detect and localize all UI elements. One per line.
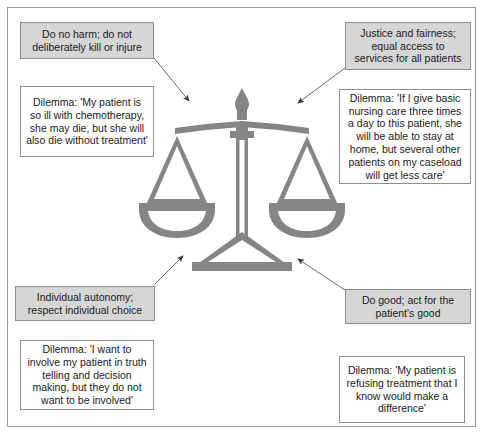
principle-text-no-harm: Do no harm; do not deliberately kill or … — [26, 28, 148, 54]
principle-box-justice: Justice and fairness; equal access to se… — [345, 22, 471, 70]
dilemma-box-chemotherapy: Dilemma: 'My patient is so ill with chem… — [20, 86, 154, 157]
dilemma-box-truth-telling: Dilemma: 'I want to involve my patient i… — [20, 340, 154, 410]
principle-box-no-harm: Do no harm; do not deliberately kill or … — [20, 22, 154, 59]
principle-text-do-good: Do good; act for the patient's good — [351, 294, 465, 320]
principle-box-autonomy: Individual autonomy; respect individual … — [15, 286, 155, 321]
dilemma-text-truth-telling: Dilemma: 'I want to involve my patient i… — [26, 343, 148, 407]
dilemma-box-refusing-treatment: Dilemma: 'My patient is refusing treatme… — [339, 356, 465, 423]
dilemma-text-refusing-treatment: Dilemma: 'My patient is refusing treatme… — [345, 364, 459, 415]
dilemma-text-chemotherapy: Dilemma: 'My patient is so ill with chem… — [26, 96, 148, 147]
ethics-diagram: Do no harm; do not deliberately kill or … — [0, 0, 484, 440]
principle-text-justice: Justice and fairness; equal access to se… — [351, 27, 465, 65]
dilemma-box-nursing-care: Dilemma: 'If I give basic nursing care t… — [339, 89, 471, 184]
dilemma-text-nursing-care: Dilemma: 'If I give basic nursing care t… — [345, 92, 465, 182]
principle-box-do-good: Do good; act for the patient's good — [345, 289, 471, 324]
principle-text-autonomy: Individual autonomy; respect individual … — [21, 291, 149, 317]
